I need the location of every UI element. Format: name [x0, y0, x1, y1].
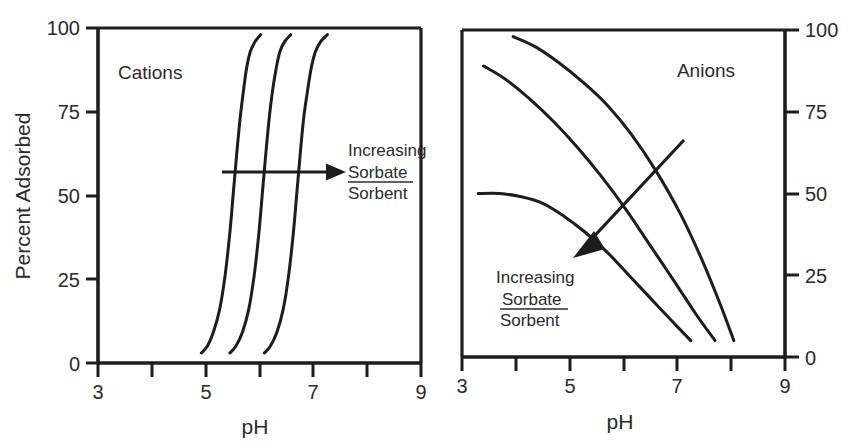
- anions-annot-line-increasing: Increasing: [496, 268, 574, 287]
- anions-ytick-label-50: 50: [805, 183, 827, 205]
- cations-ytick-label-75: 75: [58, 101, 80, 123]
- anions-xtick-label-3: 3: [456, 375, 467, 397]
- cations-annot-fraction-denominator: Sorbent: [348, 184, 408, 203]
- anions-xtick-label-5: 5: [564, 375, 575, 397]
- cations-xtick-label-5: 5: [200, 381, 211, 403]
- anions-y-ticks: [785, 30, 799, 357]
- cations-xaxis-title: pH: [242, 415, 269, 438]
- anions-annot-fraction-denominator: Sorbent: [500, 311, 560, 330]
- anions-annotation-text: Increasing Sorbate Sorbent: [496, 268, 574, 330]
- panel-label-anions: Anions: [677, 60, 735, 81]
- anions-annotation-arrow: [573, 140, 684, 258]
- cations-ytick-label-50: 50: [58, 185, 80, 207]
- cations-ytick-label-100: 100: [47, 17, 80, 39]
- cations-xtick-label-9: 9: [415, 381, 426, 403]
- anions-xtick-label-9: 9: [779, 375, 790, 397]
- cations-curve-1: [230, 35, 291, 353]
- panel-label-cations: Cations: [118, 62, 182, 83]
- cations-annot-line-increasing: Increasing: [348, 141, 426, 160]
- anions-xaxis-title: pH: [607, 410, 634, 433]
- anions-ytick-label-75: 75: [805, 101, 827, 123]
- anions-ytick-label-25: 25: [805, 265, 827, 287]
- cations-xtick-label-7: 7: [307, 381, 318, 403]
- anions-ytick-label-0: 0: [805, 347, 816, 369]
- anions-ytick-label-100: 100: [805, 19, 838, 41]
- adsorption-edge-figure: 100 75 50 25 0 3 5 7 9 pH Percent Adsorb…: [0, 0, 862, 445]
- panel-anions: 100 75 50 25 0 3 5 7 9 pH Anions: [456, 19, 838, 433]
- anions-xtick-label-7: 7: [671, 375, 682, 397]
- cations-x-ticks: [98, 363, 421, 377]
- cations-ytick-label-25: 25: [58, 269, 80, 291]
- cations-xtick-label-3: 3: [92, 381, 103, 403]
- panel-cations: 100 75 50 25 0 3 5 7 9 pH Percent Adsorb…: [11, 17, 427, 438]
- anions-x-ticks: [462, 357, 785, 371]
- cations-annot-fraction-numerator: Sorbate: [348, 163, 408, 182]
- anions-annot-fraction-numerator: Sorbate: [502, 290, 562, 309]
- cations-curve-0: [201, 35, 260, 353]
- yaxis-title-percent-adsorbed: Percent Adsorbed: [11, 113, 34, 280]
- figure-root: 100 75 50 25 0 3 5 7 9 pH Percent Adsorb…: [0, 0, 862, 445]
- cations-annotation-text: Increasing Sorbate Sorbent: [348, 141, 426, 203]
- cations-annotation-arrow: [222, 164, 346, 181]
- cations-ytick-label-0: 0: [69, 353, 80, 375]
